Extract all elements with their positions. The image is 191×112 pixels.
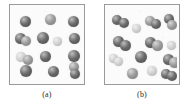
cell-panel-b-20 bbox=[167, 71, 177, 81]
cell-panel-b-14 bbox=[135, 51, 147, 63]
cell-panel-a-2 bbox=[68, 16, 79, 27]
cell-panel-a-11 bbox=[68, 50, 80, 62]
cell-panel-a-0 bbox=[20, 16, 31, 27]
figure-two-panel-micrograph: (a) (b) bbox=[0, 0, 191, 112]
cell-panel-b-2 bbox=[132, 24, 141, 33]
cell-panel-a-13 bbox=[48, 66, 59, 77]
cell-panel-a-5 bbox=[37, 32, 49, 44]
cell-panel-a-1 bbox=[45, 14, 56, 25]
cell-panel-a-7 bbox=[69, 33, 80, 44]
panel-b-cell-field bbox=[107, 7, 177, 82]
cell-panel-b-11 bbox=[167, 41, 176, 50]
cell-panel-b-1 bbox=[119, 18, 129, 28]
cell-panel-b-13 bbox=[114, 57, 123, 66]
panel-a-frame bbox=[9, 4, 85, 85]
cell-panel-b-18 bbox=[147, 66, 157, 76]
cell-panel-b-10 bbox=[152, 40, 163, 51]
cell-panel-a-4 bbox=[21, 36, 31, 46]
cell-panel-a-9 bbox=[23, 55, 33, 65]
cell-panel-a-12 bbox=[20, 65, 32, 77]
cell-panel-a-6 bbox=[53, 37, 62, 46]
cell-panel-b-17 bbox=[127, 68, 138, 79]
cell-panel-b-16 bbox=[169, 57, 177, 68]
cell-panel-a-10 bbox=[40, 51, 51, 62]
cell-panel-b-8 bbox=[120, 40, 131, 51]
cell-panel-a-15 bbox=[70, 69, 80, 79]
panel-b-container: (b) bbox=[104, 4, 180, 100]
panel-b-frame bbox=[104, 4, 180, 85]
panel-a-cell-field bbox=[12, 7, 82, 82]
panel-a-caption: (a) bbox=[9, 90, 85, 100]
cell-panel-b-4 bbox=[151, 19, 161, 29]
panel-b-caption: (b) bbox=[104, 90, 180, 100]
cell-panel-b-6 bbox=[167, 20, 177, 30]
panel-a-container: (a) bbox=[9, 4, 85, 100]
